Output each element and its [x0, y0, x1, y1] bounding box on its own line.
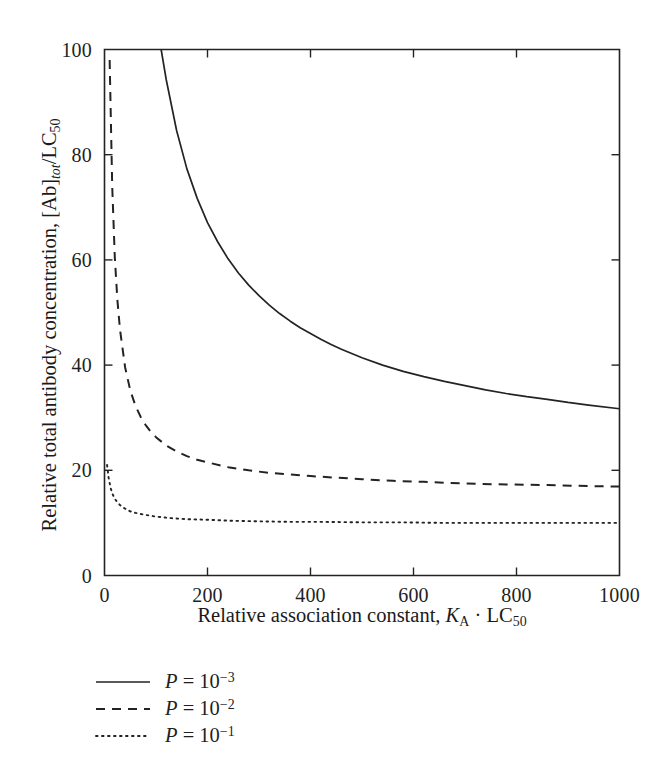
plot-frame	[105, 50, 620, 576]
y-tick-label: 20	[30, 459, 92, 482]
x-label-sub-a: A	[459, 614, 469, 629]
x-label-sub-50: 50	[513, 614, 527, 629]
axes-frame	[105, 50, 620, 576]
legend-line-sample	[95, 729, 151, 743]
legend-line-sample	[95, 702, 151, 716]
legend-label: P = 10−2	[165, 697, 235, 720]
figure-container: 020406080100 02004006008001000 Relative …	[0, 0, 666, 772]
curve-series-3	[107, 465, 619, 523]
legend-label: P = 10−3	[165, 670, 235, 693]
legend-item: P = 10−2	[95, 695, 425, 722]
chart-canvas	[0, 0, 666, 772]
y-tick-label: 0	[30, 564, 92, 587]
x-label-var-ka: K	[446, 604, 460, 626]
x-label-mid: · LC	[469, 604, 512, 626]
y-tick-label: 80	[30, 143, 92, 166]
legend-line-sample	[95, 675, 151, 689]
x-label-prefix: Relative association constant,	[197, 604, 445, 626]
curve-series-1	[161, 50, 619, 409]
chart-legend: P = 10−3P = 10−2P = 10−1	[95, 668, 425, 749]
legend-item: P = 10−3	[95, 668, 425, 695]
x-axis-label: Relative association constant, KA · LC50	[104, 604, 620, 630]
data-curves	[107, 50, 619, 523]
y-tick-label: 100	[30, 38, 92, 61]
legend-item: P = 10−1	[95, 722, 425, 749]
legend-label: P = 10−1	[165, 724, 235, 747]
y-tick-label: 40	[30, 354, 92, 377]
curve-series-2	[110, 60, 620, 487]
axis-ticks	[105, 50, 620, 576]
y-tick-label: 60	[30, 248, 92, 271]
